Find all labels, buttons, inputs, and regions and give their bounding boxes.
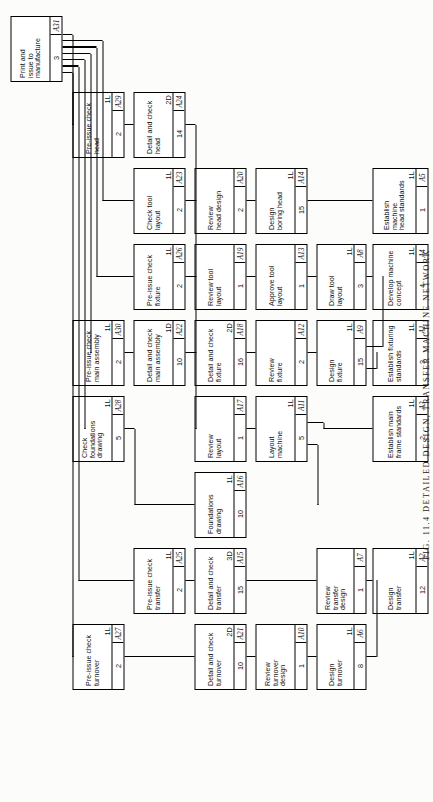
- node-footer: 2A23: [172, 169, 184, 233]
- node-title: Detail and check head: [146, 101, 161, 154]
- node-duration: 16: [234, 338, 245, 385]
- node-header: Review fixture: [256, 321, 294, 385]
- connector-vertical: [124, 656, 194, 657]
- node-duration: 15: [234, 566, 245, 613]
- connector-horizontal: [195, 353, 196, 429]
- node-id: A28: [112, 397, 123, 414]
- node-footer: 14A24: [172, 93, 184, 157]
- node-id: A18: [234, 321, 245, 338]
- connector-vertical: [185, 276, 195, 277]
- node-duration: 1: [295, 642, 306, 689]
- node-duration: 2: [173, 262, 184, 309]
- node-header: Foundations drawing1L: [195, 473, 233, 537]
- node-duration: 3: [354, 262, 365, 309]
- node-duration: 10: [234, 642, 245, 689]
- node-id: A17: [234, 397, 245, 414]
- node-footer: 2A12: [294, 321, 306, 385]
- activity-node-a20: Review head design2A20: [194, 168, 246, 234]
- node-title: Review transfer design: [324, 586, 347, 610]
- node-footer: 5A11: [294, 397, 306, 461]
- node-title: Design fixture: [328, 360, 343, 382]
- node-id: A13: [295, 245, 306, 262]
- network-diagram-canvas: Print and issue to manufacture3A31Pre-is…: [0, 0, 433, 802]
- node-duration: 3: [50, 34, 61, 81]
- node-title: Detail and check turnover: [207, 633, 222, 686]
- activity-node-a29: Pre-issue check head1L2A29: [72, 92, 124, 158]
- node-footer: 1A19: [233, 245, 245, 309]
- connector-vertical: [317, 504, 318, 505]
- connector-vertical: [307, 422, 323, 423]
- node-id: A19: [234, 245, 245, 262]
- node-duration: 2: [234, 186, 245, 233]
- node-footer: 1A17: [233, 397, 245, 461]
- activity-node-a19: Review tool layout1A19: [194, 244, 246, 310]
- connector-vertical: [307, 656, 316, 657]
- activity-node-a8: Draw tool layout1L3A8: [316, 244, 366, 310]
- node-title: Detail and check fixture: [207, 329, 222, 382]
- node-duration: 10: [173, 338, 184, 385]
- node-title: Review head design: [207, 191, 222, 230]
- node-title: Detail and check transfer: [207, 557, 222, 610]
- node-title: Approve tool layout: [268, 266, 283, 306]
- node-id: A26: [173, 245, 184, 262]
- node-duration: 5: [295, 414, 306, 461]
- connector-vertical: [307, 444, 317, 445]
- node-id: A23: [173, 169, 184, 186]
- node-duration: 14: [173, 110, 184, 157]
- node-title: Establish machine head standards: [383, 172, 406, 230]
- node-id: A29: [112, 93, 123, 110]
- activity-node-a27: Pre-issue check turnover1L2A27: [72, 624, 124, 690]
- connector-horizontal: [72, 73, 73, 657]
- connector-horizontal: [102, 41, 103, 201]
- figure-caption: FIG. 11.4 DETAILED DESIGN, TRANSFER MACH…: [409, 0, 431, 802]
- connector-horizontal: [195, 201, 196, 277]
- connector-horizontal: [134, 429, 135, 505]
- node-title: Layout machine: [268, 431, 283, 458]
- node-duration: 1: [234, 262, 245, 309]
- node-title: Review turnover design: [264, 660, 287, 686]
- node-footer: 10A16: [233, 473, 245, 537]
- connector-vertical: [246, 428, 255, 429]
- node-duration: 8: [354, 642, 365, 689]
- connector-vertical: [62, 53, 90, 54]
- node-resource-code: 1L: [286, 399, 294, 408]
- activity-node-a12: Review fixture2A12: [255, 320, 307, 386]
- node-resource-code: 1L: [103, 627, 111, 636]
- node-duration: 5: [112, 414, 123, 461]
- node-header: Detail and check transfer3D: [195, 549, 233, 613]
- node-title: Develop machine concept: [387, 250, 402, 306]
- activity-node-a16: Foundations drawing1L10A16: [194, 472, 246, 538]
- connector-vertical: [307, 200, 372, 201]
- connector-vertical: [78, 580, 133, 581]
- activity-node-a21: Detail and check turnover2D10A21: [194, 624, 246, 690]
- connector-horizontal: [376, 581, 377, 657]
- connector-vertical: [376, 580, 377, 581]
- connector-vertical: [134, 504, 194, 505]
- node-resource-code: 2D: [164, 95, 172, 105]
- connector-vertical: [62, 65, 78, 66]
- connector-vertical: [185, 580, 194, 581]
- node-title: Check tool layout: [146, 196, 161, 230]
- node-duration: 10: [234, 490, 245, 537]
- node-footer: 3A8: [353, 245, 365, 309]
- connector-vertical: [195, 200, 196, 201]
- node-footer: 2A29: [111, 93, 123, 157]
- node-duration: 2: [173, 186, 184, 233]
- node-resource-code: 1L: [345, 627, 353, 636]
- node-duration: 2: [112, 110, 123, 157]
- node-footer: 5A28: [111, 397, 123, 461]
- node-id: A12: [295, 321, 306, 338]
- node-title: Draw tool layout: [328, 276, 343, 306]
- node-footer: 1A13: [294, 245, 306, 309]
- node-header: Detail and check head2D: [134, 93, 172, 157]
- node-title: Establish fixturing standards: [387, 325, 402, 382]
- node-footer: 15A15: [233, 549, 245, 613]
- connector-vertical: [62, 34, 72, 35]
- node-title: Review layout: [207, 434, 222, 458]
- connector-vertical: [246, 656, 255, 657]
- node-title: Design boring head: [268, 192, 283, 230]
- node-id: A20: [234, 169, 245, 186]
- node-footer: 10A22: [172, 321, 184, 385]
- connector-vertical: [246, 200, 255, 201]
- node-duration: 2: [295, 338, 306, 385]
